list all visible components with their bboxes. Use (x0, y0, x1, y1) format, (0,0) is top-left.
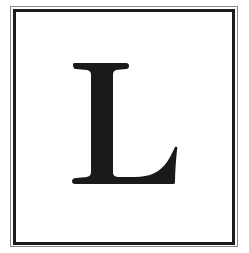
letter-l-glyph (0, 0, 249, 253)
